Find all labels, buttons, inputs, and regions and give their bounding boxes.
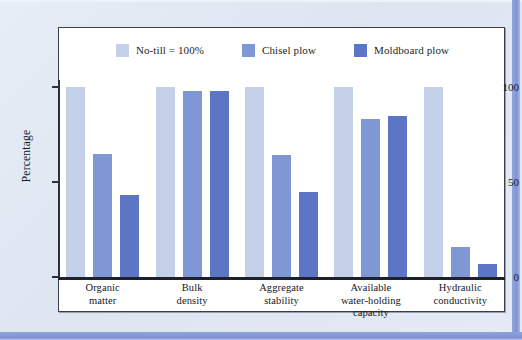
bar bbox=[299, 192, 318, 278]
bar-group bbox=[156, 27, 229, 277]
bar-group bbox=[66, 27, 139, 277]
bar bbox=[183, 91, 202, 277]
x-axis-category-labels: OrganicmatterBulkdensityAggregatestabili… bbox=[58, 282, 505, 330]
figure-canvas: No-till = 100%Chisel plowMoldboard plow … bbox=[0, 0, 522, 340]
bar-group bbox=[245, 27, 318, 277]
bar bbox=[272, 155, 291, 277]
bar bbox=[93, 154, 112, 278]
bar bbox=[334, 87, 353, 277]
bars-layer bbox=[58, 27, 505, 277]
x-axis-category-label-line: Hydraulic bbox=[403, 282, 518, 295]
x-axis-category-label: Hydraulicconductivity bbox=[403, 282, 518, 307]
bar bbox=[451, 247, 470, 277]
bar-group bbox=[424, 27, 497, 277]
x-axis-category-label-line: conductivity bbox=[403, 295, 518, 308]
bar bbox=[361, 119, 380, 277]
bar-group bbox=[334, 27, 407, 277]
bar bbox=[245, 87, 264, 277]
bar bbox=[388, 116, 407, 278]
y-axis-title: Percentage bbox=[20, 101, 32, 211]
top-edge-highlight bbox=[0, 0, 522, 2]
bottom-accent-band bbox=[0, 332, 522, 340]
bar bbox=[66, 87, 85, 277]
bar bbox=[156, 87, 175, 277]
bar bbox=[478, 264, 497, 277]
x-axis-line bbox=[58, 277, 505, 280]
bar bbox=[120, 195, 139, 277]
bar bbox=[210, 91, 229, 277]
bar bbox=[424, 87, 443, 277]
x-axis-category-label-line: capacity bbox=[313, 307, 428, 320]
